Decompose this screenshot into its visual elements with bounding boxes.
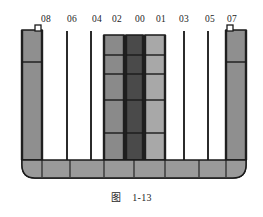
column-rail-right-01	[164, 35, 166, 160]
caption-number: 1-13	[132, 191, 152, 205]
column-03	[183, 31, 185, 160]
column-body-08	[22, 30, 42, 160]
column-05	[207, 31, 209, 160]
column-line-04	[90, 31, 92, 160]
column-rail-right-08	[41, 30, 43, 160]
column-rail-right-07	[245, 30, 247, 160]
bottom-bar	[22, 160, 246, 178]
column-rail-left-00	[125, 35, 127, 160]
column-rail-left-02	[103, 35, 105, 160]
column-rail-left-01	[144, 35, 146, 160]
column-04	[90, 31, 92, 160]
column-line-03	[183, 31, 185, 160]
column-rail-left-07	[225, 30, 227, 160]
column-body-00	[126, 35, 143, 160]
figure-caption: 图1-13	[0, 191, 263, 205]
figure-container: 08 06 04 02 00 01 03 05 07 图1-13	[0, 0, 263, 217]
column-07	[225, 25, 247, 160]
caption-label: 图	[111, 191, 121, 205]
column-top-notch-08	[35, 25, 41, 31]
column-line-05	[207, 31, 209, 160]
column-06	[66, 31, 68, 160]
column-body-07	[226, 30, 246, 160]
column-line-06	[66, 31, 68, 160]
column-08	[21, 25, 43, 160]
column-01	[144, 35, 166, 160]
cross-section-diagram	[0, 0, 263, 190]
column-02	[103, 35, 125, 160]
column-00	[125, 35, 144, 160]
column-body-01	[145, 35, 165, 160]
column-top-notch-07	[227, 25, 233, 31]
column-body-02	[104, 35, 124, 160]
column-rail-left-08	[21, 30, 23, 160]
